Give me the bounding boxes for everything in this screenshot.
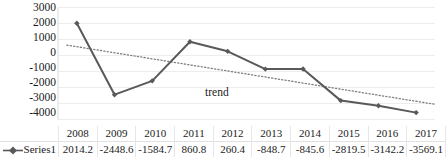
data-table-value-2009: -2448.6	[97, 142, 136, 158]
legend-entry-series1: Series1	[0, 142, 59, 158]
data-table-year-2010: 2010	[136, 126, 175, 142]
trend-annotation-label: trend	[205, 86, 229, 98]
data-table-value-2016: -3142.2	[368, 142, 407, 158]
data-point-2017	[413, 110, 418, 115]
data-table-value-2012: 260.4	[213, 142, 252, 158]
trend-line	[67, 45, 435, 104]
plot-area: 3000 2000 1000 0 -1000 -2000 -3000 -4000…	[0, 0, 442, 128]
data-table-year-2017: 2017	[407, 126, 446, 142]
data-table: 2008200920102011201220132014201520162017…	[0, 126, 446, 157]
y-tick-2000: 2000	[6, 17, 56, 29]
data-table-value-2011: 860.8	[175, 142, 214, 158]
series-markers-series1	[74, 21, 419, 116]
series-line-series1	[77, 23, 416, 112]
legend-label-series1: Series1	[24, 143, 56, 156]
legend-line-marker-icon	[3, 145, 23, 154]
data-table-year-2008: 2008	[59, 126, 98, 142]
data-table-year-2013: 2013	[252, 126, 291, 142]
data-table-value-2015: -2819.5	[329, 142, 368, 158]
data-table-year-2011: 2011	[175, 126, 214, 142]
data-table-year-2009: 2009	[97, 126, 136, 142]
y-tick-n3000: -3000	[6, 92, 56, 104]
y-axis-tick-labels: 3000 2000 1000 0 -1000 -2000 -3000 -4000	[6, 0, 56, 128]
gridlines	[58, 8, 435, 120]
y-tick-3000: 3000	[6, 2, 56, 14]
data-table-values-row: Series1 2014.2-2448.6-1584.7860.8260.4-8…	[0, 142, 445, 158]
y-tick-1000: 1000	[6, 32, 56, 44]
data-table-year-2015: 2015	[329, 126, 368, 142]
plot-svg	[0, 0, 442, 128]
data-table-value-2010: -1584.7	[136, 142, 175, 158]
y-tick-n2000: -2000	[6, 77, 56, 89]
data-table-value-2014: -845.6	[291, 142, 330, 158]
data-table-year-2016: 2016	[368, 126, 407, 142]
y-tick-0: 0	[6, 47, 56, 59]
data-table-year-2014: 2014	[291, 126, 330, 142]
data-table-value-2008: 2014.2	[59, 142, 98, 158]
y-tick-n4000: -4000	[6, 107, 56, 119]
data-table-year-2012: 2012	[213, 126, 252, 142]
data-table-value-2013: -848.7	[252, 142, 291, 158]
data-table-corner-cell	[0, 126, 59, 142]
y-tick-n1000: -1000	[6, 62, 56, 74]
data-table-value-2017: -3569.1	[407, 142, 446, 158]
data-table-header-row: 2008200920102011201220132014201520162017	[0, 126, 445, 142]
